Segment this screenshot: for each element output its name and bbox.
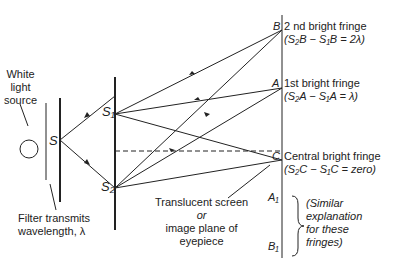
light-source-circle (20, 140, 38, 158)
point-a1-label: A₁ (268, 191, 279, 204)
fringe-2-label: 2 nd bright fringe(S₂B − S₁B = 2λ) (284, 20, 367, 46)
slit-s-label: S (49, 134, 58, 147)
screen-label: Translucent screenorimage plane ofeyepie… (155, 196, 248, 248)
fringe-1-label: 1st bright fringe(S₂A − S₁A = λ) (284, 77, 360, 103)
point-a-label: A (272, 77, 279, 90)
fringe-central-label: Central bright fringe(S₂C − S₁C = zero) (284, 150, 381, 176)
filter-label: Filter transmitswavelength, λ (18, 212, 90, 238)
double-slit-diagram: Whitelightsource Filter transmitswavelen… (0, 0, 396, 272)
slit-s1-label: S₁ (102, 105, 115, 118)
similar-note: (Similarexplanationfor thesefringes) (306, 197, 362, 249)
slit-s2-label: S₂ (101, 180, 115, 193)
white-light-source-label: Whitelightsource (4, 68, 37, 107)
point-c-label: C (272, 150, 280, 163)
point-b1-label: B₁ (268, 240, 279, 253)
point-b-label: B (273, 20, 280, 33)
